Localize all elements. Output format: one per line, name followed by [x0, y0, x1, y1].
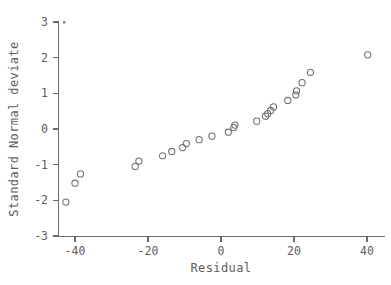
data-point: [63, 199, 69, 205]
qq-plot-figure: -3-2-10123 -40-2002040 Residual Standard…: [0, 0, 391, 285]
x-tick-label: 40: [360, 244, 374, 258]
y-tick-label: 2: [41, 51, 48, 65]
stray-pixel-artifact: [63, 21, 66, 24]
data-point: [77, 171, 83, 177]
data-point: [209, 133, 215, 139]
data-point: [136, 158, 142, 164]
x-axis-title: Residual: [191, 261, 252, 275]
data-point: [293, 88, 299, 94]
data-point: [183, 141, 189, 147]
y-tick-label: -3: [34, 229, 48, 243]
data-point: [307, 69, 313, 75]
y-tick-label: -2: [34, 193, 48, 207]
y-tick-label: 0: [41, 122, 48, 136]
data-point: [160, 153, 166, 159]
y-axis-ticks: -3-2-10123: [34, 15, 58, 243]
x-tick-label: -20: [138, 244, 159, 258]
x-tick-label: 0: [218, 244, 225, 258]
y-axis-title: Standard Normal deviate: [7, 41, 21, 216]
data-points-group: [63, 52, 371, 206]
y-tick-label: 1: [41, 86, 48, 100]
data-point: [254, 118, 260, 124]
data-point: [285, 97, 291, 103]
data-point: [196, 137, 202, 143]
scatter-plot-canvas: -3-2-10123 -40-2002040 Residual Standard…: [0, 0, 391, 285]
data-point: [72, 180, 78, 186]
y-tick-label: -1: [34, 158, 48, 172]
y-tick-label: 3: [41, 15, 48, 29]
x-axis-ticks: -40-2002040: [65, 237, 374, 259]
data-point: [225, 129, 231, 135]
data-point: [365, 52, 371, 58]
data-point: [169, 148, 175, 154]
data-point: [299, 80, 305, 86]
axes-group: [58, 21, 385, 237]
data-point: [180, 144, 186, 150]
x-tick-label: 20: [287, 244, 301, 258]
x-tick-label: -40: [65, 244, 86, 258]
